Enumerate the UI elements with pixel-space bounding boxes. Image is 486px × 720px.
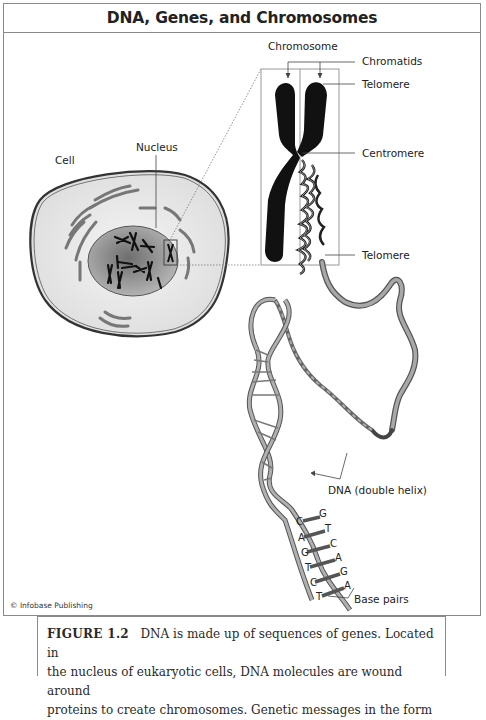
- chromatin-fiber: [322, 262, 415, 438]
- base-left-4: T: [304, 562, 312, 573]
- cell-illustration: [30, 171, 228, 336]
- centromere-label: Centromere: [362, 147, 424, 159]
- figure-caption: FIGURE 1.2 DNA is made up of sequences o…: [37, 616, 446, 676]
- dna-diagram: Cell Nucleus Chromosome C: [0, 0, 486, 616]
- chromatids-label: Chromatids: [362, 55, 422, 67]
- nucleus-label: Nucleus: [136, 141, 178, 153]
- base-right-4: A: [335, 552, 342, 563]
- telomere-top-label: Telomere: [361, 78, 410, 90]
- telomere-bottom-label: Telomere: [361, 249, 410, 261]
- base-left-2: A: [298, 532, 305, 543]
- caption-label: FIGURE 1.2: [47, 627, 129, 641]
- publisher-credit: © Infobase Publishing: [10, 601, 93, 610]
- base-right-3: C: [330, 538, 337, 549]
- base-right-1: G: [319, 508, 327, 519]
- base-left-6: T: [315, 591, 323, 602]
- caption-line-2: the nucleus of eukaryotic cells, DNA mol…: [47, 663, 445, 701]
- caption-line-3: proteins to create chromosomes. Genetic …: [47, 701, 445, 720]
- base-right-6: A: [344, 580, 351, 591]
- chromosome-detail: [261, 69, 339, 274]
- base-left-5: C: [310, 577, 317, 588]
- dna-label: DNA (double helix): [328, 484, 427, 496]
- base-right-2: T: [324, 523, 332, 534]
- dna-pointers: [311, 453, 347, 479]
- base-pairs: C A G T C T G T C A G A: [296, 508, 354, 602]
- base-left-3: G: [301, 547, 309, 558]
- base-right-5: G: [340, 566, 348, 577]
- caption-line-1: FIGURE 1.2 DNA is made up of sequences o…: [47, 625, 445, 663]
- base-left-1: C: [296, 516, 303, 527]
- chromosome-label: Chromosome: [268, 40, 338, 52]
- base-pairs-label: Base pairs: [354, 593, 409, 605]
- cell-label: Cell: [55, 154, 75, 166]
